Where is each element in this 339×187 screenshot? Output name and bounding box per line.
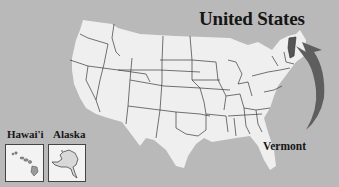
alaska-inset-label: Alaska [53, 128, 85, 140]
hawaii-inset-label: Hawai'i [7, 128, 44, 140]
alaska-inset [48, 144, 86, 182]
alaska-shape [49, 145, 84, 180]
map-title: United States [199, 8, 305, 30]
vermont-callout-label: Vermont [263, 140, 306, 152]
hawaii-islands [6, 145, 42, 180]
hawaii-inset [5, 144, 44, 182]
